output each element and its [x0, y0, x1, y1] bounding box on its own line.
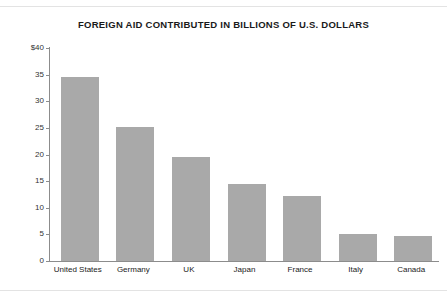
x-axis-tick-label: United States [50, 265, 106, 274]
x-axis-tick-label: Italy [328, 265, 384, 274]
plot-area [50, 48, 439, 261]
y-axis-tick-label-text: 25 [10, 123, 44, 132]
y-axis-tick-mark [46, 234, 49, 235]
bar-slot [116, 48, 154, 261]
y-axis-tick-label-text: $40 [10, 43, 44, 52]
y-axis-tick-label: 30 [10, 96, 44, 106]
bar-slot [394, 48, 432, 261]
y-axis-tick-label: 5 [10, 229, 44, 239]
x-axis-tick-label: Canada [383, 265, 439, 274]
y-axis-tick-label-text: 0 [10, 256, 44, 265]
y-axis-tick-label: 25 [10, 123, 44, 133]
y-axis-tick-mark [46, 208, 49, 209]
x-axis-tick-label: UK [161, 265, 217, 274]
y-axis-tick-mark [46, 48, 49, 49]
bar-slot [339, 48, 377, 261]
bar-slot [61, 48, 99, 261]
x-axis-tick-label: Japan [217, 265, 273, 274]
figure-bottom-divider [0, 290, 447, 291]
y-axis-tick-mark [46, 75, 49, 76]
y-axis-tick-label: $40 [10, 43, 44, 53]
chart-title: FOREIGN AID CONTRIBUTED IN BILLIONS OF U… [0, 19, 447, 30]
bar[interactable] [172, 157, 210, 261]
y-axis-tick-label-text: 20 [10, 150, 44, 159]
y-axis-tick-label-text: 30 [10, 96, 44, 105]
y-axis-tick-mark [46, 155, 49, 156]
bar[interactable] [61, 77, 99, 261]
y-axis-tick-label: 10 [10, 203, 44, 213]
y-axis-tick-label-text: 15 [10, 176, 44, 185]
bar[interactable] [228, 184, 266, 261]
y-axis-tick-label-text: 5 [10, 229, 44, 238]
y-axis-tick-label: 35 [10, 70, 44, 80]
bar-slot [228, 48, 266, 261]
bar-slot [172, 48, 210, 261]
y-axis-tick-mark [46, 128, 49, 129]
y-axis-tick-mark [46, 181, 49, 182]
x-axis-line [49, 261, 439, 262]
y-axis-tick-label: 0 [10, 256, 44, 266]
y-axis-tick-mark [46, 261, 49, 262]
x-axis-tick-label: France [272, 265, 328, 274]
y-axis-tick-label: 20 [10, 150, 44, 160]
y-axis-tick-label-text: 35 [10, 70, 44, 79]
bar[interactable] [394, 236, 432, 261]
bar-chart-figure: FOREIGN AID CONTRIBUTED IN BILLIONS OF U… [0, 0, 447, 297]
x-axis-tick-label: Germany [106, 265, 162, 274]
y-axis-tick-mark [46, 101, 49, 102]
bar-slot [283, 48, 321, 261]
y-axis-tick-label-text: 10 [10, 203, 44, 212]
figure-top-divider [0, 6, 447, 7]
bar[interactable] [116, 127, 154, 261]
bar[interactable] [339, 234, 377, 261]
bar[interactable] [283, 196, 321, 261]
y-axis-tick-label: 15 [10, 176, 44, 186]
